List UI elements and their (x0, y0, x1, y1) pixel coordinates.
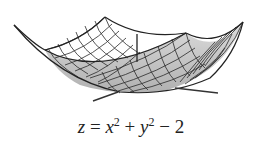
minus-sign: − (155, 116, 175, 137)
equals-sign: = (85, 116, 105, 137)
plus-sign: + (120, 116, 140, 137)
var-y: y (140, 116, 148, 137)
x-axis (93, 92, 118, 101)
constant-term: 2 (175, 116, 185, 137)
var-x: x (105, 116, 113, 137)
paraboloid-figure: z = x2 + y2 − 2 (0, 0, 262, 153)
y-axis (175, 88, 218, 93)
equation-caption: z = x2 + y2 − 2 (0, 116, 262, 138)
